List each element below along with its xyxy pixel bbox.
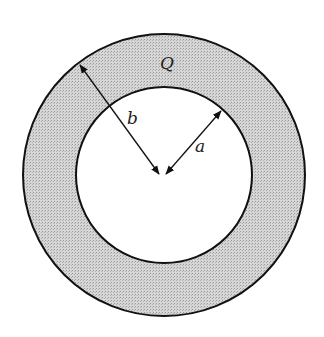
inner-radius-arrow (166, 111, 221, 174)
inner-circle (76, 87, 252, 263)
inner-radius-label: a (195, 136, 205, 156)
shaded-ring (23, 34, 305, 316)
annulus-diagram: Q b a (0, 0, 324, 337)
charge-label: Q (160, 53, 174, 73)
outer-radius-label: b (127, 108, 138, 128)
